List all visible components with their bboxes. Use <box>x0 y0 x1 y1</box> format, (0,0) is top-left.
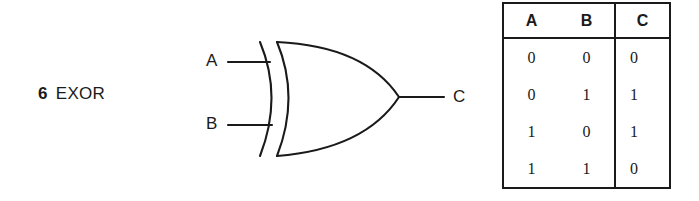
table-row: 1 0 1 <box>504 113 669 150</box>
cell-c: 1 <box>616 76 669 113</box>
row-input-group: 0 1 <box>504 76 616 113</box>
figure-caption: 6EXOR <box>38 84 105 104</box>
exor-extra-arc <box>260 42 272 156</box>
figure-number: 6 <box>38 84 48 103</box>
output-label-c: C <box>453 88 465 105</box>
cell-c: 1 <box>616 113 669 150</box>
cell-a: 1 <box>504 150 559 187</box>
column-header-b: B <box>559 4 614 37</box>
row-output-group: 0 <box>616 39 669 76</box>
cell-b: 0 <box>559 113 614 150</box>
row-output-group: 0 <box>616 150 669 187</box>
cell-c: 0 <box>616 39 669 76</box>
figure-title: EXOR <box>56 84 105 103</box>
or-bottom-lobe <box>277 97 399 156</box>
input-label-a: A <box>206 52 217 69</box>
column-header-a: A <box>504 4 559 37</box>
row-input-group: 1 0 <box>504 113 616 150</box>
header-input-group: A B <box>504 4 616 37</box>
column-header-c: C <box>616 4 669 37</box>
row-output-group: 1 <box>616 76 669 113</box>
cell-b: 0 <box>559 39 614 76</box>
or-top-lobe <box>277 42 399 97</box>
row-output-group: 1 <box>616 113 669 150</box>
row-input-group: 1 1 <box>504 150 616 187</box>
truth-table-header-row: A B C <box>504 4 669 39</box>
exor-gate-symbol <box>195 30 485 175</box>
cell-a: 0 <box>504 39 559 76</box>
table-row: 1 1 0 <box>504 150 669 187</box>
cell-b: 1 <box>559 76 614 113</box>
table-row: 0 1 1 <box>504 76 669 113</box>
header-output-group: C <box>616 4 669 37</box>
cell-c: 0 <box>616 150 669 187</box>
cell-a: 1 <box>504 113 559 150</box>
or-back-arc <box>277 42 289 156</box>
exor-gate-diagram: A B C <box>195 30 485 175</box>
cell-b: 1 <box>559 150 614 187</box>
input-label-b: B <box>206 115 217 132</box>
cell-a: 0 <box>504 76 559 113</box>
truth-table: A B C 0 0 0 0 1 1 1 <box>502 2 671 189</box>
table-row: 0 0 0 <box>504 39 669 76</box>
truth-table-body: 0 0 0 0 1 1 1 0 1 <box>504 39 669 187</box>
row-input-group: 0 0 <box>504 39 616 76</box>
